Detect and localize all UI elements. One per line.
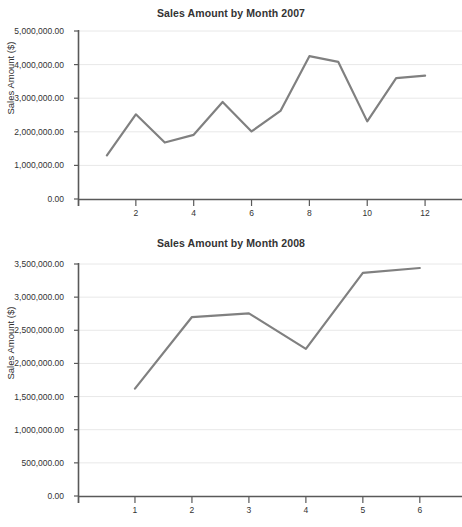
x-tick-label: 12: [420, 208, 429, 218]
x-tick-label: 1: [133, 505, 138, 515]
data-series-line: [135, 268, 420, 389]
x-tick-label: 6: [417, 505, 422, 515]
chart-title-2008: Sales Amount by Month 2008: [0, 237, 462, 249]
y-tick-label: 3,500,000.00: [14, 259, 64, 269]
chart-panel-2008: Sales Amount by Month 2008 Sales Amount …: [0, 228, 462, 527]
x-tick-label: 2: [133, 208, 138, 218]
chart-panel-2007: Sales Amount by Month 2007 Sales Amount …: [0, 0, 462, 228]
y-tick-label: 500,000.00: [21, 458, 64, 468]
y-tick-label: 2,500,000.00: [14, 325, 64, 335]
chart-title-2007: Sales Amount by Month 2007: [0, 7, 462, 19]
plot-area-2007: 0.001,000,000.002,000,000.003,000,000.00…: [78, 31, 454, 199]
y-tick-label: 2,000,000.00: [14, 358, 64, 368]
y-tick-label: 1,500,000.00: [14, 392, 64, 402]
line-chart-svg-2008: [78, 264, 462, 510]
x-tick-label: 4: [304, 505, 309, 515]
y-tick-label: 1,000,000.00: [14, 425, 64, 435]
y-tick-label: 0.00: [47, 491, 64, 501]
x-tick-label: 4: [191, 208, 196, 218]
x-tick-label: 6: [249, 208, 254, 218]
plot-area-2008: 0.00500,000.001,000,000.001,500,000.002,…: [78, 264, 454, 496]
x-tick-label: 2: [190, 505, 195, 515]
y-tick-label: 3,000,000.00: [14, 93, 64, 103]
y-tick-label: 0.00: [47, 194, 64, 204]
y-tick-label: 3,000,000.00: [14, 292, 64, 302]
x-tick-label: 8: [307, 208, 312, 218]
y-tick-label: 2,000,000.00: [14, 127, 64, 137]
data-series-line: [107, 56, 425, 155]
y-tick-label: 4,000,000.00: [14, 60, 64, 70]
x-tick-label: 10: [362, 208, 371, 218]
x-tick-label: 5: [360, 505, 365, 515]
y-tick-label: 5,000,000.00: [14, 26, 64, 36]
y-tick-label: 1,000,000.00: [14, 160, 64, 170]
x-tick-label: 3: [247, 505, 252, 515]
line-chart-svg-2007: [78, 31, 462, 213]
